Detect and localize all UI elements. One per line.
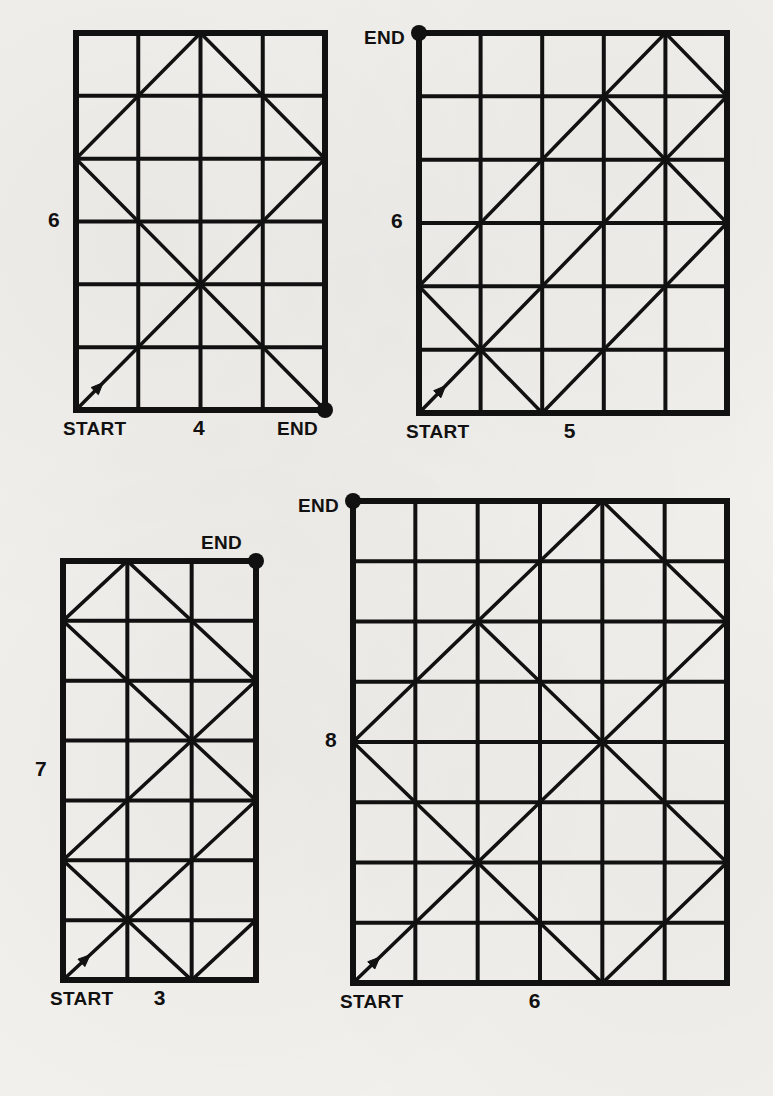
figure-4-width-label: 6 <box>529 989 541 1013</box>
figure-2-end-dot <box>411 25 427 41</box>
figure-4-end-dot <box>345 493 361 509</box>
figure-3-end-label: END <box>201 532 242 554</box>
figure-2-end-label: END <box>364 27 405 49</box>
figure-2-start-label: START <box>406 421 469 443</box>
figure-4-height-label: 8 <box>325 728 337 752</box>
figure-4-start-label: START <box>340 991 403 1013</box>
figure-1-end-label: END <box>277 418 318 440</box>
billiard-figure-3 <box>63 561 256 980</box>
figure-3-end-dot <box>248 553 264 569</box>
figure-3-width-label: 3 <box>154 986 166 1010</box>
figure-1-end-dot <box>317 402 333 418</box>
billiard-figure-2 <box>419 33 727 413</box>
billiard-figure-4 <box>353 501 727 983</box>
figure-1-height-label: 6 <box>48 208 60 232</box>
figure-3-canvas <box>63 561 256 980</box>
figure-2-width-label: 5 <box>564 419 576 443</box>
figure-1-grid-lines <box>76 33 325 410</box>
figure-4-end-label: END <box>298 495 339 517</box>
figure-1-canvas <box>76 33 325 410</box>
figure-1-start-label: START <box>63 418 126 440</box>
figure-3-start-label: START <box>50 988 113 1010</box>
billiard-figure-1 <box>76 33 325 410</box>
figure-3-billiard-path <box>63 561 256 980</box>
figure-1-width-label: 4 <box>193 416 205 440</box>
figure-2-height-label: 6 <box>391 209 403 233</box>
figure-2-canvas <box>419 33 727 413</box>
figure-4-canvas <box>353 501 727 983</box>
figure-4-grid-lines <box>353 501 727 983</box>
figure-3-height-label: 7 <box>35 757 47 781</box>
figure-2-grid-lines <box>419 33 727 413</box>
page-canvas: START 4 END 6 START 5 END 6 START 3 END … <box>0 0 773 1096</box>
